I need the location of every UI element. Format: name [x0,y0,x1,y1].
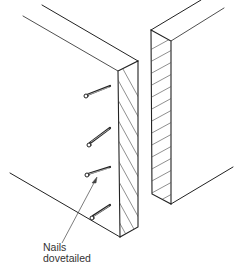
left-board [10,5,140,260]
right-board [150,0,233,206]
nail-1 [84,86,110,98]
nail-2 [87,128,110,147]
nails [84,86,110,220]
annotation-leader [62,177,97,243]
dovetail-nailing-diagram: Nails dovetailed [0,0,239,263]
annotation-label-line2: dovetailed [43,252,91,263]
arrowhead-icon [92,177,97,183]
nail-3 [85,167,110,177]
nail-4 [90,205,110,220]
